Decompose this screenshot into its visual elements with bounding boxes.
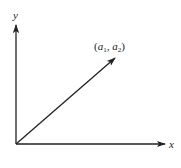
- x-axis-label: x: [168, 138, 174, 150]
- vector-arrow: [16, 58, 115, 144]
- vector-label: (a1, a2): [94, 40, 125, 54]
- vector-diagram: y x (a1, a2): [0, 0, 181, 168]
- y-axis-label: y: [12, 9, 18, 21]
